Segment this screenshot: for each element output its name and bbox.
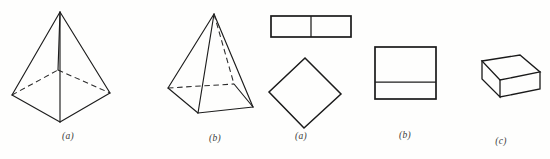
figure-label-c1: (c) bbox=[490, 136, 512, 146]
pyramid-b-drawing bbox=[160, 0, 270, 132]
slab-top-face bbox=[482, 55, 540, 80]
square-outline bbox=[375, 47, 436, 99]
rectangle-divided-drawing bbox=[268, 12, 358, 44]
square-divided-drawing bbox=[372, 44, 444, 106]
base-edge-left-front bbox=[168, 88, 198, 113]
lateral-edge-front bbox=[198, 14, 214, 113]
diamond-outline bbox=[269, 58, 341, 128]
lateral-edge-left bbox=[168, 14, 214, 88]
lateral-edge-right bbox=[60, 12, 110, 93]
figure-label-b2: (b) bbox=[394, 130, 416, 140]
figure-square-divided-b: (b) bbox=[372, 44, 444, 106]
figure-label-a1: (a) bbox=[57, 131, 79, 141]
figure-label-a2: (a) bbox=[290, 131, 312, 141]
figure-slab-c: (c) bbox=[462, 50, 548, 112]
diamond-drawing bbox=[258, 52, 348, 132]
figure-pyramid-a: (a) bbox=[0, 0, 150, 130]
base-edge-front-right bbox=[198, 107, 253, 113]
lateral-edge-right bbox=[214, 14, 253, 107]
pyramid-a-drawing bbox=[0, 0, 150, 130]
hidden-base-edge-left-back bbox=[168, 84, 234, 88]
figure-label-b1: (b) bbox=[204, 133, 226, 143]
figure-diamond-a: (a) bbox=[258, 52, 348, 132]
base-edge-right-back bbox=[234, 84, 253, 107]
hidden-lateral-edge-back bbox=[214, 14, 234, 84]
base-edge-front-right bbox=[60, 93, 110, 122]
lateral-edge-left bbox=[12, 12, 60, 95]
figure-pyramid-b: (b) bbox=[160, 0, 270, 132]
slab-left-face bbox=[482, 61, 500, 97]
hidden-base-edge-back-right bbox=[58, 70, 110, 93]
figure-rectangle-divided bbox=[268, 12, 358, 44]
slab-drawing bbox=[462, 50, 548, 112]
base-edge-left-front bbox=[12, 95, 60, 122]
figure-plate: (a) (b) (a) bbox=[0, 0, 550, 159]
